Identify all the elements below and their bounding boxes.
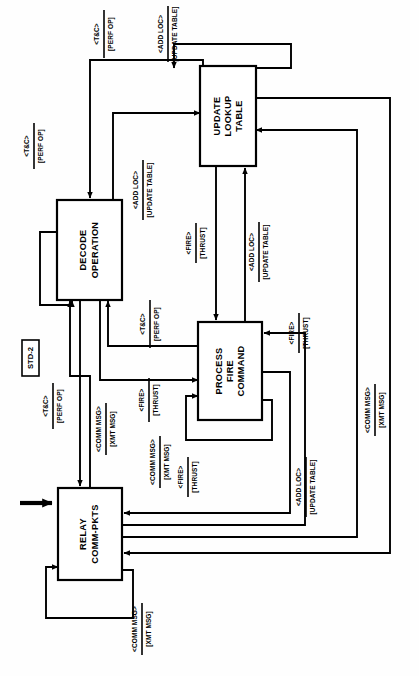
svg-text:<T&C>: <T&C> <box>23 135 30 157</box>
svg-text:[PERF OP]: [PERF OP] <box>37 129 45 163</box>
svg-text:TABLE: TABLE <box>234 100 244 131</box>
svg-text:[THRUST]: [THRUST] <box>191 461 199 493</box>
svg-text:OPERATION: OPERATION <box>90 222 100 279</box>
edge-label-t13: <FIRE> [THRUST] <box>288 313 310 353</box>
std-diagram-canvas: UPDATE LOOKUP TABLE DECODE OPERATION PRO… <box>0 0 419 676</box>
edge-label-t6: <ADD LOC> [UPDATE TABLE] <box>248 222 270 282</box>
svg-text:[XMT MSG]: [XMT MSG] <box>378 392 386 428</box>
edge-label-t15: <COMM MSG> [XMT MSG] <box>364 384 386 436</box>
svg-text:[UPDATE TABLE]: [UPDATE TABLE] <box>262 225 270 280</box>
edge-label-t16: <COMM MSG> [XMT MSG] <box>131 603 153 655</box>
svg-text:RELAY: RELAY <box>78 518 88 550</box>
svg-text:[THRUST]: [THRUST] <box>302 317 310 349</box>
svg-text:FIRE: FIRE <box>225 360 235 382</box>
svg-text:COMMAND: COMMAND <box>236 345 246 396</box>
svg-text:<COMM MSG>: <COMM MSG> <box>149 439 156 485</box>
svg-text:<COMM MSG>: <COMM MSG> <box>131 606 138 652</box>
edge-label-t2: <T&C> [PERF OP] <box>93 10 115 58</box>
edge-label-t8: <T&C> [PERF OP] <box>42 383 64 429</box>
svg-text:[UPDATE TABLE]: [UPDATE TABLE] <box>309 460 317 515</box>
svg-text:[XMT MSG]: [XMT MSG] <box>145 611 153 647</box>
svg-text:DECODE: DECODE <box>78 229 88 270</box>
edge-update-self <box>174 44 291 68</box>
diagram-id-label: STD-2 <box>26 347 35 369</box>
svg-text:[THRUST]: [THRUST] <box>152 384 160 416</box>
edge-decode-to-process <box>100 301 198 380</box>
svg-text:[THRUST]: [THRUST] <box>199 227 207 259</box>
svg-text:<T&C>: <T&C> <box>139 313 146 335</box>
edge-label-t5: <FIRE> [THRUST] <box>185 223 207 263</box>
svg-text:[UPDATE TABLE]: [UPDATE TABLE] <box>146 163 154 218</box>
edge-decode-to-update <box>113 113 200 228</box>
svg-text:[PERF OP]: [PERF OP] <box>107 17 115 51</box>
edge-label-t11: <COMM MSG> [XMT MSG] <box>149 436 171 488</box>
edge-label-t3: <T&C> [PERF OP] <box>23 123 45 169</box>
svg-text:<T&C>: <T&C> <box>93 23 100 45</box>
svg-text:<FIRE>: <FIRE> <box>138 388 145 411</box>
edge-label-t7: <T&C> [PERF OP] <box>139 300 161 348</box>
svg-text:<COMM MSG>: <COMM MSG> <box>364 387 371 433</box>
svg-text:<FIRE>: <FIRE> <box>288 321 295 344</box>
svg-text:<ADD LOC>: <ADD LOC> <box>248 233 255 271</box>
svg-text:<FIRE>: <FIRE> <box>177 465 184 488</box>
svg-text:STD-2: STD-2 <box>26 347 35 369</box>
svg-text:LOOKUP: LOOKUP <box>223 95 233 136</box>
svg-text:<ADD LOC>: <ADD LOC> <box>132 171 139 209</box>
svg-text:[XMT MSG]: [XMT MSG] <box>163 444 171 480</box>
edge-label-t9: <COMM MSG> [XMT MSG] <box>95 403 117 455</box>
svg-text:<T&C>: <T&C> <box>42 395 49 417</box>
edge-label-t12: <FIRE> [THRUST] <box>177 457 199 497</box>
svg-text:[UPDATE TABLE]: [UPDATE TABLE] <box>171 7 179 62</box>
svg-text:[PERF OP]: [PERF OP] <box>56 389 64 423</box>
svg-text:[PERF OP]: [PERF OP] <box>153 307 161 341</box>
svg-text:<ADD LOC>: <ADD LOC> <box>295 468 302 506</box>
edge-label-t14: <ADD LOC> [UPDATE TABLE] <box>295 457 317 517</box>
edge-label-t4: <ADD LOC> [UPDATE TABLE] <box>132 160 154 220</box>
state-transition-diagram: UPDATE LOOKUP TABLE DECODE OPERATION PRO… <box>0 0 419 676</box>
edge-label-t1: <ADD LOC> [UPDATE TABLE] <box>157 6 179 62</box>
svg-text:<ADD LOC>: <ADD LOC> <box>157 15 164 53</box>
state-label-update-lookup-table: UPDATE LOOKUP TABLE <box>212 95 244 136</box>
svg-text:PROCESS: PROCESS <box>214 347 224 394</box>
svg-text:<COMM MSG>: <COMM MSG> <box>95 406 102 452</box>
svg-text:<FIRE>: <FIRE> <box>185 231 192 254</box>
svg-text:[XMT MSG]: [XMT MSG] <box>109 411 117 447</box>
svg-text:UPDATE: UPDATE <box>212 97 222 136</box>
edge-label-t10: <FIRE> [THRUST] <box>138 378 160 422</box>
svg-text:COMM-PKTS: COMM-PKTS <box>90 504 100 563</box>
